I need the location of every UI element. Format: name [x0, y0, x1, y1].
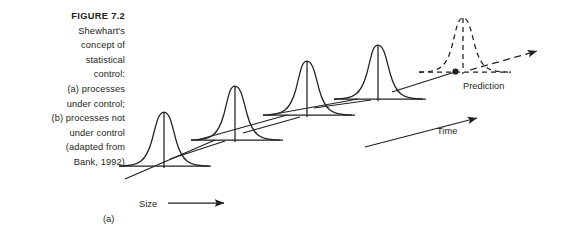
- prediction-curve-group: [419, 18, 511, 74]
- trend-line-to-prediction: [392, 72, 455, 92]
- control-chart-diagram: Prediction Time Size: [0, 0, 563, 244]
- rail-segment: [125, 140, 215, 179]
- rail-segment: [269, 99, 358, 115]
- prediction-label: Prediction: [463, 81, 504, 91]
- perspective-rails: [125, 99, 371, 179]
- distribution-curve-2: [191, 86, 283, 142]
- distribution-curve-3: [263, 61, 355, 117]
- time-axis-label: Time: [437, 126, 457, 136]
- rail-segment: [170, 141, 225, 159]
- time-axis-arrow: [365, 118, 477, 147]
- future-trend-arrow: [470, 51, 537, 70]
- prediction-point-dot: [452, 68, 458, 74]
- distribution-curve-4: [334, 45, 426, 101]
- size-axis-label: Size: [139, 199, 157, 209]
- figure-page: FIGURE 7.2 Shewhart's concept of statist…: [0, 0, 563, 244]
